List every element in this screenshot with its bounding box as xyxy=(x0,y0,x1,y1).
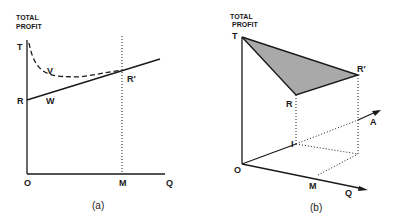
label-t: T xyxy=(17,42,23,52)
label-q: Q xyxy=(345,188,352,198)
label-m: M xyxy=(119,178,127,188)
panel-a: TOTAL PROFIT T V R W R′ O M Q (a) xyxy=(16,14,173,211)
label-r-prime: R′ xyxy=(357,64,366,74)
axis-title-line2: PROFIT xyxy=(232,21,258,28)
label-q: Q xyxy=(166,178,173,188)
label-w: W xyxy=(46,96,55,106)
axis-title-line1: TOTAL xyxy=(230,13,253,20)
curve-v xyxy=(29,43,122,77)
caption-b: (b) xyxy=(310,202,322,213)
diagram-canvas: TOTAL PROFIT T V R W R′ O M Q (a) TOTAL xyxy=(0,0,395,221)
axis-title-line1: TOTAL xyxy=(16,14,39,21)
label-o: O xyxy=(234,165,241,175)
axis-title-line2: PROFIT xyxy=(16,23,42,30)
label-t: T xyxy=(232,31,238,41)
label-r: R xyxy=(17,96,24,106)
a-arrowhead-icon xyxy=(372,110,381,116)
q-arrowhead-icon xyxy=(358,186,368,191)
panel-b: TOTAL PROFIT T R R′ I A O M Q (b) xyxy=(230,13,381,213)
shaded-region-t-r-rprime xyxy=(242,37,358,95)
m-to-corner-dotted xyxy=(318,154,358,175)
caption-a: (a) xyxy=(92,200,104,211)
label-a: A xyxy=(370,117,377,127)
i-to-corner-dotted xyxy=(296,144,358,154)
label-r: R xyxy=(286,99,293,109)
label-r-prime: R′ xyxy=(127,74,136,84)
q-axis xyxy=(242,164,364,189)
label-i: I xyxy=(291,139,294,149)
label-v: V xyxy=(47,66,53,76)
label-m: M xyxy=(309,181,317,191)
a-axis-solid xyxy=(242,144,296,164)
label-o: O xyxy=(24,178,31,188)
a-axis-dotted xyxy=(296,120,358,144)
